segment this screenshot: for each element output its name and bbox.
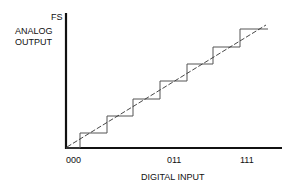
staircase-curve	[66, 29, 268, 148]
ideal-line	[67, 25, 266, 147]
fs-label: FS	[51, 12, 63, 22]
x-axis-label: DIGITAL INPUT	[141, 172, 205, 182]
x-tick-111: 111	[240, 155, 254, 165]
y-axis-label-2: OUTPUT	[15, 37, 52, 47]
x-tick-000: 000	[66, 155, 81, 165]
y-axis-label-1: ANALOG	[15, 26, 53, 36]
x-tick-011: 011	[167, 155, 181, 165]
